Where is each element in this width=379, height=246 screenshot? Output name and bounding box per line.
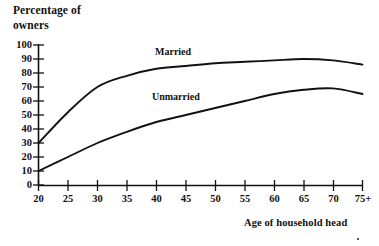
x-tick-label-65: 65 <box>289 193 319 204</box>
series-label-married: Married <box>155 46 191 57</box>
series-line-married <box>39 59 363 143</box>
y-tick-label-0: 0 <box>6 179 32 190</box>
y-tick-label-20: 20 <box>6 151 32 162</box>
y-tick-label-10: 10 <box>6 165 32 176</box>
chart-figure: Percentage of owners <box>0 0 379 246</box>
x-tick-label-25: 25 <box>53 193 83 204</box>
y-tick-label-50: 50 <box>6 109 32 120</box>
x-tick-label-50: 50 <box>201 193 231 204</box>
y-tick-label-70: 70 <box>6 81 32 92</box>
y-tick-label-90: 90 <box>6 53 32 64</box>
x-tick-label-45: 45 <box>171 193 201 204</box>
chart-canvas <box>0 0 379 246</box>
x-tick-label-20: 20 <box>24 193 54 204</box>
x-axis-title: Age of household head <box>244 217 347 228</box>
y-tick-label-80: 80 <box>6 67 32 78</box>
stray-speck <box>357 238 359 240</box>
y-tick-label-100: 100 <box>6 39 32 50</box>
x-tick-label-30: 30 <box>83 193 113 204</box>
y-tick-label-60: 60 <box>6 95 32 106</box>
x-tick-label-35: 35 <box>112 193 142 204</box>
x-tick-label-55: 55 <box>230 193 260 204</box>
y-tick-label-30: 30 <box>6 137 32 148</box>
y-axis <box>33 44 44 186</box>
series-line-unmarried <box>39 88 363 171</box>
x-tick-label-75plus: 75+ <box>348 193 378 204</box>
y-tick-label-40: 40 <box>6 123 32 134</box>
x-tick-label-70: 70 <box>319 193 349 204</box>
series-label-unmarried: Unmarried <box>152 91 200 102</box>
x-tick-label-60: 60 <box>260 193 290 204</box>
x-axis <box>38 180 363 191</box>
x-tick-label-40: 40 <box>142 193 172 204</box>
